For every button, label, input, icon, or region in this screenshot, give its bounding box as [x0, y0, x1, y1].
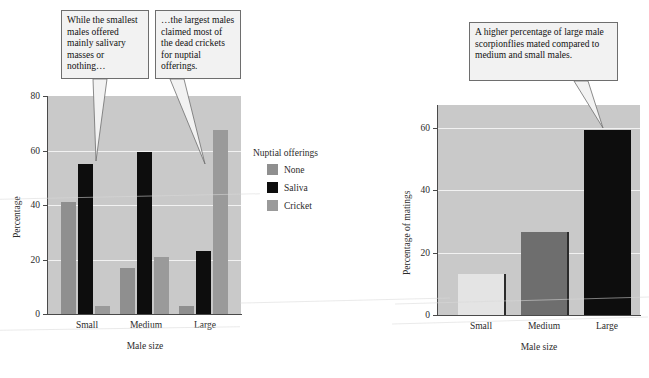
right-ytick-20 — [433, 253, 437, 254]
callout-large-males-mated-text: A higher percentage of large male scorpi… — [475, 27, 604, 60]
left-y-axis — [47, 96, 48, 315]
right-bar-medium — [521, 232, 568, 315]
right-bar-large — [584, 130, 631, 315]
legend-swatch-none-icon — [267, 164, 278, 175]
callout-largest-males-tail — [160, 78, 210, 166]
right-y-axis — [437, 105, 438, 316]
right-ytick-label-60: 60 — [408, 123, 430, 133]
left-ytick-label-80: 80 — [18, 91, 40, 101]
left-ytick-label-20: 20 — [18, 255, 40, 265]
left-chart-legend: Nuptial offerings None Saliva Cricket — [253, 148, 318, 218]
left-ytick-label-60: 60 — [18, 146, 40, 156]
callout-smallest-males: While the smallest males offered mainly … — [61, 10, 149, 79]
left-ytick-40 — [43, 205, 47, 206]
callout-largest-males: …the largest males claimed most of the d… — [155, 10, 241, 79]
legend-swatch-saliva-icon — [267, 182, 278, 193]
right-plot-area — [438, 105, 640, 315]
legend-title: Nuptial offerings — [253, 148, 318, 158]
left-bar-small-cricket — [95, 306, 110, 314]
left-bar-small-saliva — [78, 164, 93, 314]
legend-item-cricket: Cricket — [253, 200, 318, 211]
left-x-axis — [47, 314, 242, 315]
callout-large-males-mated-tail — [570, 80, 610, 130]
right-ytick-label-0: 0 — [408, 310, 430, 320]
callout-smallest-males-text: While the smallest males offered mainly … — [67, 15, 138, 71]
right-ytick-40 — [433, 190, 437, 191]
right-bar-small — [458, 274, 505, 315]
legend-item-none: None — [253, 164, 318, 175]
left-ytick-20 — [43, 260, 47, 261]
left-bar-large-saliva — [196, 251, 211, 314]
legend-label-saliva: Saliva — [284, 183, 308, 193]
right-xtick-label-medium: Medium — [521, 321, 567, 331]
left-plot-area — [48, 96, 241, 314]
right-x-axis-title: Male size — [491, 342, 587, 352]
legend-swatch-cricket-icon — [267, 200, 278, 211]
right-bar-small-edge — [504, 274, 506, 315]
legend-label-cricket: Cricket — [284, 201, 312, 211]
left-bar-medium-saliva — [137, 152, 152, 314]
legend-label-none: None — [284, 165, 305, 175]
right-x-axis — [437, 315, 641, 316]
callout-largest-males-text: …the largest males claimed most of the d… — [161, 15, 234, 71]
left-bar-large-none — [179, 306, 194, 314]
callout-large-males-mated: A higher percentage of large male scorpi… — [469, 22, 618, 81]
right-xtick-label-large: Large — [584, 321, 630, 331]
left-x-axis-title: Male size — [97, 341, 193, 351]
right-ytick-0 — [433, 315, 437, 316]
right-bar-medium-edge — [567, 232, 569, 315]
left-xtick-label-large: Large — [181, 320, 229, 330]
left-bar-large-cricket — [213, 130, 228, 314]
right-ytick-60 — [433, 128, 437, 129]
legend-item-saliva: Saliva — [253, 182, 318, 193]
left-bar-medium-cricket — [154, 257, 169, 314]
left-ytick-80 — [43, 96, 47, 97]
left-bar-medium-none — [120, 268, 135, 314]
left-y-axis-title: Percentage — [12, 196, 22, 238]
right-y-axis-title: Percentage of matings — [402, 191, 412, 275]
left-ytick-label-0: 0 — [18, 309, 40, 319]
left-bar-small-none — [61, 202, 76, 314]
left-ytick-0 — [43, 314, 47, 315]
callout-smallest-males-tail — [85, 78, 125, 163]
left-ytick-60 — [43, 151, 47, 152]
figure-canvas: 80 60 40 20 0 Percentage Small Medium La… — [0, 0, 649, 378]
